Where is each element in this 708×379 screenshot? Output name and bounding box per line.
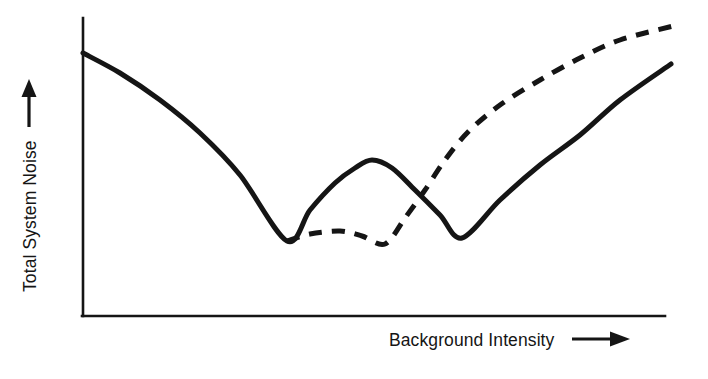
solid-noise-curve: [83, 53, 671, 242]
right-arrow-icon: [570, 330, 632, 348]
x-axis-label-text: Background Intensity: [389, 330, 554, 350]
x-axis-label: Background Intensity: [389, 330, 632, 351]
up-arrow-icon: [20, 77, 38, 129]
dashed-noise-curve: [287, 26, 673, 245]
plot-area: [0, 0, 708, 379]
axis-lines: [82, 18, 665, 316]
y-axis-label: Total System Noise: [20, 77, 41, 292]
y-axis-label-text: Total System Noise: [20, 140, 40, 292]
chart-figure: Total System Noise Background Intensity: [0, 0, 708, 379]
